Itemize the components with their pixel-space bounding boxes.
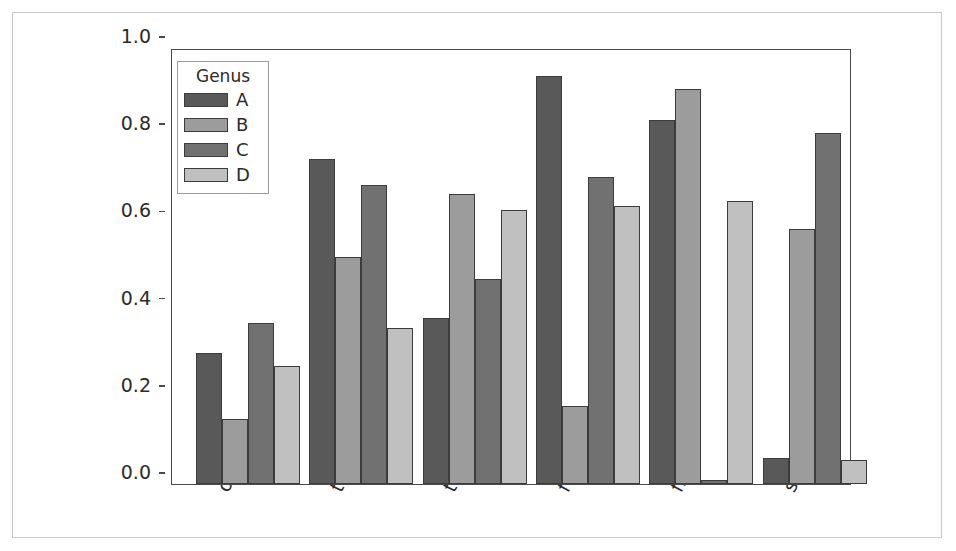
bar bbox=[815, 133, 841, 484]
bar bbox=[196, 353, 222, 484]
legend-label: A bbox=[236, 91, 248, 109]
figure-frame: 0.00.20.40.60.81.0 onetwothreefourfivesi… bbox=[12, 12, 942, 538]
plot-axes bbox=[171, 49, 851, 485]
bar bbox=[475, 279, 501, 484]
legend-swatch bbox=[184, 143, 228, 157]
y-tick-mark bbox=[159, 385, 165, 387]
bar bbox=[789, 229, 815, 484]
y-tick-label: 1.0 bbox=[99, 25, 151, 47]
bar bbox=[387, 328, 413, 484]
bar bbox=[501, 210, 527, 484]
legend: Genus ABCD bbox=[177, 61, 269, 194]
legend-label: D bbox=[236, 166, 250, 184]
y-tick-mark bbox=[159, 472, 165, 474]
bar bbox=[449, 194, 475, 484]
legend-swatch bbox=[184, 118, 228, 132]
bar bbox=[649, 120, 675, 484]
y-tick-mark bbox=[159, 36, 165, 38]
y-tick-label: 0.0 bbox=[99, 461, 151, 483]
legend-entry: D bbox=[184, 163, 262, 187]
y-tick-mark bbox=[159, 211, 165, 213]
legend-swatch bbox=[184, 168, 228, 182]
legend-entry: C bbox=[184, 138, 262, 162]
bar bbox=[222, 419, 248, 484]
legend-entries: ABCD bbox=[184, 88, 262, 187]
y-tick-mark bbox=[159, 123, 165, 125]
y-tick-label: 0.2 bbox=[99, 374, 151, 396]
bar bbox=[701, 480, 727, 484]
legend-entry: B bbox=[184, 113, 262, 137]
bar bbox=[727, 201, 753, 484]
y-tick-label: 0.8 bbox=[99, 112, 151, 134]
bar bbox=[361, 185, 387, 484]
bar bbox=[309, 159, 335, 484]
legend-label: B bbox=[236, 116, 248, 134]
y-tick-label: 0.4 bbox=[99, 287, 151, 309]
bar bbox=[423, 318, 449, 484]
bar bbox=[841, 460, 867, 484]
legend-title: Genus bbox=[184, 67, 262, 85]
bar bbox=[588, 177, 614, 484]
bar bbox=[675, 89, 701, 484]
bar bbox=[536, 76, 562, 484]
bar bbox=[763, 458, 789, 484]
legend-label: C bbox=[236, 141, 249, 159]
bar bbox=[335, 257, 361, 484]
figure-canvas: 0.00.20.40.60.81.0 onetwothreefourfivesi… bbox=[0, 0, 956, 551]
bar bbox=[614, 206, 640, 484]
bars-container bbox=[172, 50, 850, 484]
legend-swatch bbox=[184, 93, 228, 107]
y-tick-label: 0.6 bbox=[99, 199, 151, 221]
legend-entry: A bbox=[184, 88, 262, 112]
bar bbox=[562, 406, 588, 484]
bar bbox=[248, 323, 274, 484]
y-tick-mark bbox=[159, 298, 165, 300]
bar bbox=[274, 366, 300, 484]
